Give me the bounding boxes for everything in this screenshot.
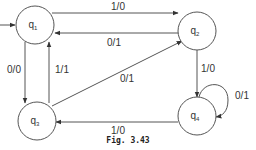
transition-label: 1/0 <box>111 125 125 136</box>
transition-label: 0/1 <box>120 73 134 84</box>
transition-q2-q1: 0/1 <box>55 33 179 48</box>
transition-label: 1/0 <box>201 63 215 74</box>
transition-label: 1/0 <box>111 1 125 12</box>
transition-label: 0/1 <box>235 90 249 101</box>
transition-q3-q1: 1/1 <box>49 42 69 103</box>
transition-q4-q3: 1/0 <box>56 122 178 136</box>
transition-q2-q4: 1/0 <box>197 50 215 97</box>
state-q1: q1 <box>16 6 54 44</box>
transition-q1-q2: 1/0 <box>52 1 178 13</box>
state-q3: q3 <box>18 102 56 140</box>
transition-label: 1/1 <box>55 64 69 75</box>
state-diagram: 1/0 0/1 0/0 1/1 0/1 1/0 0/1 1/0 q1 <box>0 0 256 150</box>
state-q4: q4 <box>178 97 216 135</box>
transition-q3-q2: 0/1 <box>52 41 182 106</box>
figure-caption: Fig. 3.43 <box>0 136 256 145</box>
transition-q1-q3: 0/0 <box>7 42 25 103</box>
state-q2: q2 <box>178 12 216 50</box>
transition-label: 0/1 <box>107 37 121 48</box>
transition-label: 0/0 <box>7 64 21 75</box>
